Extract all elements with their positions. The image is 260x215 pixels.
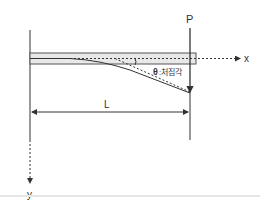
length-label: L — [104, 99, 110, 110]
bottom-divider — [0, 195, 260, 197]
theta-description: :처짐각 — [159, 67, 183, 77]
theta-symbol: θ — [153, 67, 158, 77]
cantilever-beam-diagram: P x y L θ :처짐각 — [0, 0, 260, 215]
load-label: P — [186, 13, 193, 25]
x-axis-label: x — [244, 53, 249, 64]
